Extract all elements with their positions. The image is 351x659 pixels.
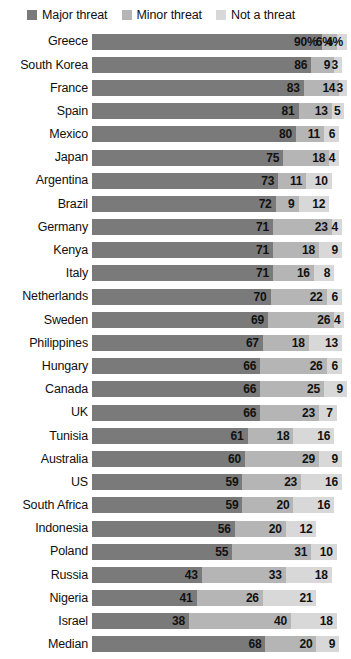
- row-stacked-bar: 611816: [92, 428, 351, 444]
- chart-row: US592316: [0, 471, 351, 494]
- bar-segment-none: 10: [306, 173, 332, 189]
- row-stacked-bar: 60299: [92, 451, 351, 467]
- bar-segment-none: 13: [309, 335, 342, 351]
- row-category-label: Germany: [0, 221, 92, 234]
- chart-row: Sweden69264: [0, 308, 351, 331]
- row-stacked-bar: 412621: [92, 590, 351, 606]
- bar-segment-value: 86: [294, 59, 311, 71]
- bar-segment-none: 5: [332, 103, 345, 119]
- bar-segment-value: 40: [274, 615, 291, 627]
- bar-segment-none: 4: [332, 219, 342, 235]
- bar-segment-major: 60: [92, 451, 245, 467]
- bar-segment-major: 75: [92, 150, 283, 166]
- bar-segment-value: 22: [310, 291, 327, 303]
- row-stacked-bar: 671813: [92, 335, 351, 351]
- row-category-label: UK: [0, 406, 92, 419]
- bar-segment-minor: 16: [273, 265, 314, 281]
- bar-segment-minor: 11: [296, 126, 324, 142]
- chart-row: Netherlands70226: [0, 285, 351, 308]
- bar-segment-value: 23: [315, 221, 332, 233]
- bar-segment-minor: 25: [260, 381, 324, 397]
- bar-segment-none: 3: [334, 57, 342, 73]
- chart-row: Spain81135: [0, 100, 351, 123]
- row-category-label: Sweden: [0, 314, 92, 327]
- row-category-label: Median: [0, 638, 92, 651]
- bar-segment-minor: 18: [283, 150, 329, 166]
- bar-segment-value: 18: [315, 569, 332, 581]
- chart-row: Poland553110: [0, 540, 351, 563]
- legend-swatch-minor-icon: [122, 10, 132, 20]
- row-stacked-bar: 72912: [92, 196, 351, 212]
- bar-segment-value: 71: [256, 267, 273, 279]
- row-stacked-bar: 90%6%4%: [92, 34, 351, 50]
- bar-segment-major: 71: [92, 242, 273, 258]
- bar-segment-value: 4: [329, 152, 339, 164]
- bar-segment-value: 6: [331, 291, 341, 303]
- bar-segment-value: 20: [299, 638, 316, 650]
- row-stacked-bar: 75184: [92, 150, 351, 166]
- bar-segment-value: 5: [334, 105, 344, 117]
- bar-segment-value: 43: [185, 569, 202, 581]
- bar-segment-value: 73: [261, 175, 278, 187]
- chart-row: Greece90%6%4%: [0, 30, 351, 53]
- bar-segment-value: 23: [284, 476, 301, 488]
- bar-segment-value: 9: [329, 638, 339, 650]
- bar-segment-value: 71: [256, 221, 273, 233]
- chart-row: France83143: [0, 76, 351, 99]
- bar-segment-major: 86: [92, 57, 311, 73]
- row-category-label: Australia: [0, 453, 92, 466]
- bar-segment-none: 18: [291, 613, 337, 629]
- chart-row: Russia433318: [0, 563, 351, 586]
- row-stacked-bar: 553110: [92, 544, 351, 560]
- legend-item-none[interactable]: Not a threat: [216, 8, 295, 22]
- bar-segment-value: 69: [251, 314, 268, 326]
- row-stacked-bar: 384018: [92, 613, 351, 629]
- chart-row: Indonesia562012: [0, 517, 351, 540]
- bar-segment-value: 26: [246, 592, 263, 604]
- chart-row: Mexico80116: [0, 123, 351, 146]
- row-category-label: France: [0, 82, 92, 95]
- bar-segment-minor: 20: [265, 636, 316, 652]
- chart-row: Brazil72912: [0, 192, 351, 215]
- chart-row: Hungary66266: [0, 355, 351, 378]
- bar-segment-value: 11: [290, 175, 306, 187]
- bar-segment-value: 12: [312, 198, 329, 210]
- bar-segment-major: 69: [92, 312, 268, 328]
- row-category-label: Israel: [0, 615, 92, 628]
- bar-segment-value: 38: [172, 615, 189, 627]
- bar-segment-value: 13: [325, 337, 342, 349]
- bar-segment-value: 16: [317, 499, 334, 511]
- bar-segment-value: 29: [302, 453, 319, 465]
- bar-segment-value: 16: [325, 476, 342, 488]
- row-stacked-bar: 80116: [92, 126, 351, 142]
- bar-segment-value: 66: [243, 383, 260, 395]
- bar-segment-minor: 11: [278, 173, 306, 189]
- bar-segment-value: 26: [317, 314, 334, 326]
- bar-segment-none: 18: [286, 567, 332, 583]
- legend-item-label: Not a threat: [231, 8, 295, 22]
- bar-segment-none: 16: [293, 497, 334, 513]
- bar-segment-minor: 40: [189, 613, 291, 629]
- bar-segment-none: 10: [311, 544, 337, 560]
- legend-item-major[interactable]: Major threat: [27, 8, 108, 22]
- bar-segment-value: 20: [276, 499, 293, 511]
- legend-item-minor[interactable]: Minor threat: [122, 8, 203, 22]
- bar-segment-minor: 23: [260, 405, 319, 421]
- bar-segment-major: 59: [92, 497, 242, 513]
- bar-segment-minor: 31: [232, 544, 311, 560]
- row-stacked-bar: 433318: [92, 567, 351, 583]
- bar-segment-minor: 18: [248, 428, 294, 444]
- bar-segment-value: 7: [326, 407, 336, 419]
- row-stacked-bar: 562012: [92, 521, 351, 537]
- bar-segment-major: 70: [92, 289, 271, 305]
- bar-segment-value: 81: [282, 105, 299, 117]
- bar-segment-major: 59: [92, 474, 242, 490]
- bar-segment-value: 16: [297, 267, 314, 279]
- row-category-label: Mexico: [0, 128, 92, 141]
- bar-segment-value: 4: [331, 221, 341, 233]
- bar-segment-value: 67: [246, 337, 263, 349]
- bar-segment-minor: 23: [242, 474, 301, 490]
- bar-segment-minor: 13: [299, 103, 332, 119]
- bar-segment-value: 59: [225, 499, 242, 511]
- row-category-label: Argentina: [0, 174, 92, 187]
